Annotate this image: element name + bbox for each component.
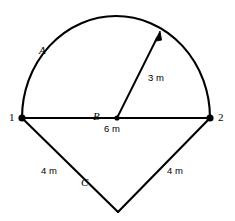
node-2-label: 2 <box>218 112 224 123</box>
chord-dimension-label: 6 m <box>104 124 120 134</box>
semicircular-arc <box>22 16 210 118</box>
bottom-point-c-label: C <box>81 177 88 188</box>
leg-right-line <box>118 118 210 212</box>
diagram-canvas <box>0 0 235 221</box>
center-point-b-label: B <box>93 111 100 122</box>
arc-point-a-label: A <box>39 45 46 56</box>
node-2-dot <box>206 114 213 121</box>
right-leg-dimension-label: 4 m <box>167 166 183 176</box>
center-dot <box>114 115 119 120</box>
geometry-diagram: 1 2 A B C 3 m 6 m 4 m 4 m <box>0 0 235 221</box>
radius-dimension-label: 3 m <box>148 73 164 83</box>
left-leg-dimension-label: 4 m <box>41 166 57 176</box>
node-1-label: 1 <box>9 112 15 123</box>
node-1-dot <box>18 114 25 121</box>
radius-arrow-head <box>155 31 161 41</box>
